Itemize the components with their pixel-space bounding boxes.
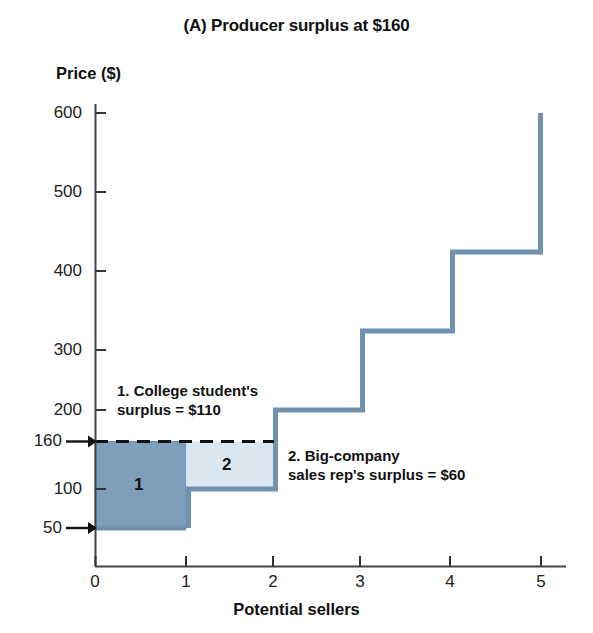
y-tick-label-300: 300 — [8, 340, 82, 360]
plot-area — [0, 0, 593, 633]
x-tick-label-4: 4 — [430, 572, 470, 592]
y-tick-label-160: 160 — [2, 431, 62, 451]
y-tick-label-500: 500 — [8, 182, 82, 202]
x-tick-label-1: 1 — [166, 572, 206, 592]
surplus-region-2-label: 2 — [222, 455, 231, 475]
surplus-region-1-label: 1 — [134, 475, 143, 495]
x-axis-ticks — [96, 556, 542, 566]
y-arrow-160 — [66, 436, 97, 448]
x-tick-label-3: 3 — [340, 572, 380, 592]
annotation-big-company: 2. Big-company sales rep's surplus = $60 — [288, 446, 465, 484]
x-tick-label-5: 5 — [521, 572, 561, 592]
y-arrow-50 — [66, 522, 97, 534]
y-tick-label-600: 600 — [8, 103, 82, 123]
y-tick-label-400: 400 — [8, 261, 82, 281]
x-tick-label-0: 0 — [75, 572, 115, 592]
producer-surplus-chart: (A) Producer surplus at $160 Price ($) — [0, 0, 593, 633]
y-tick-label-200: 200 — [8, 400, 82, 420]
x-axis-label: Potential sellers — [0, 600, 593, 619]
y-tick-label-50: 50 — [2, 518, 62, 538]
y-tick-label-100: 100 — [8, 479, 82, 499]
x-tick-label-2: 2 — [253, 572, 293, 592]
annotation-college-student: 1. College student's surplus = $110 — [117, 381, 258, 419]
y-axis-ticks — [95, 113, 106, 489]
